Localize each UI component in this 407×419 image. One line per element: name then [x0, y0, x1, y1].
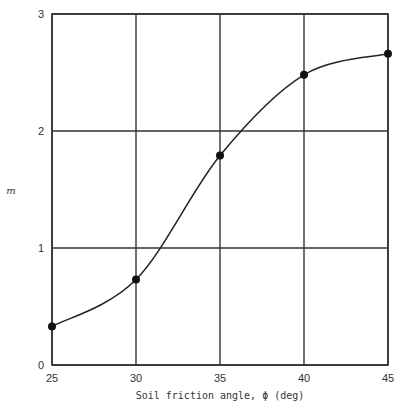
- y-tick-label: 1: [38, 242, 44, 254]
- x-tick-labels: 2530354045: [46, 372, 394, 384]
- y-tick-label: 0: [38, 359, 44, 371]
- data-point-marker: [384, 50, 392, 58]
- y-tick-labels: 0123: [38, 8, 44, 371]
- x-tick-label: 30: [130, 372, 142, 384]
- chart: 2530354045 0123 Soil friction angle, ϕ (…: [0, 0, 407, 419]
- x-tick-label: 35: [214, 372, 226, 384]
- data-point-marker: [300, 71, 308, 79]
- x-axis-label: Soil friction angle, ϕ (deg): [136, 390, 305, 401]
- data-point-marker: [132, 276, 140, 284]
- grid-lines: [52, 14, 388, 365]
- y-axis-label: m: [6, 185, 15, 196]
- y-tick-label: 3: [38, 8, 44, 20]
- data-point-marker: [48, 322, 56, 330]
- x-tick-label: 40: [298, 372, 310, 384]
- x-tick-label: 45: [382, 372, 394, 384]
- y-tick-label: 2: [38, 125, 44, 137]
- data-point-marker: [216, 152, 224, 160]
- x-tick-label: 25: [46, 372, 58, 384]
